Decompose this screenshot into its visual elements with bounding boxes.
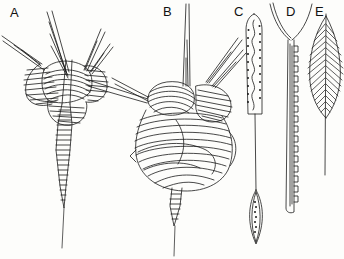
- panel-label-d: D: [286, 5, 296, 18]
- panel-label-c: C: [234, 5, 244, 18]
- figure-plate: A B C D E: [0, 0, 344, 259]
- specimen-illustration: [0, 0, 344, 259]
- panel-label-e: E: [315, 5, 324, 18]
- panel-label-a: A: [10, 6, 19, 19]
- panel-label-b: B: [163, 5, 172, 18]
